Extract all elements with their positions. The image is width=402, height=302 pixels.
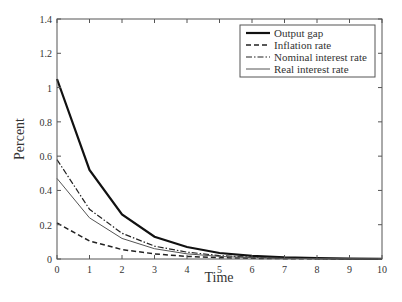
x-tick-label: 6 [250,264,255,275]
y-axis-label: Percent [12,118,27,160]
y-tick-label: 0.8 [40,117,53,128]
x-tick-label: 9 [347,264,352,275]
x-tick-label: 1 [87,264,92,275]
y-tick-label: 1.2 [40,48,53,59]
x-tick-label: 8 [315,264,320,275]
x-tick-label: 7 [282,264,287,275]
y-tick-label: 0 [47,254,52,265]
series-line-output-gap [57,79,382,259]
legend-label-nominal-interest-rate: Nominal interest rate [274,51,367,63]
y-tick-label: 0.6 [40,151,53,162]
legend-label-real-interest-rate: Real interest rate [274,63,349,75]
x-tick-label: 2 [120,264,125,275]
y-tick-label: 0.4 [40,185,53,196]
x-tick-label: 0 [55,264,60,275]
series-line-nominal-interest-rate [57,160,382,259]
x-tick-label: 4 [185,264,190,275]
y-tick-label: 1.4 [40,14,53,25]
x-axis-label: Time [204,270,233,285]
y-tick-label: 0.2 [40,220,53,231]
legend: Output gap Inflation rate Nominal intere… [240,25,375,77]
legend-label-inflation-rate: Inflation rate [274,39,331,51]
y-tick-label: 1 [47,83,52,94]
legend-label-output-gap: Output gap [274,27,324,39]
plot-lines [57,79,382,259]
line-chart: 01234567891000.20.40.60.811.21.4 Time Pe… [0,0,402,302]
x-tick-label: 10 [377,264,387,275]
x-tick-label: 3 [152,264,157,275]
